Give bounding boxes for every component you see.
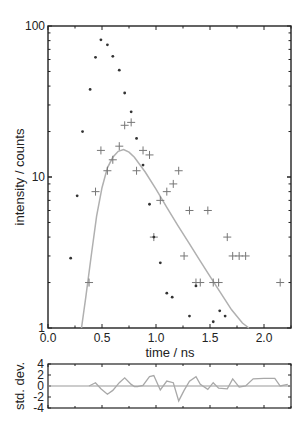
dot-marker xyxy=(69,257,72,260)
dot-marker xyxy=(106,43,109,46)
cross-marker xyxy=(204,206,212,214)
dot-marker xyxy=(81,130,84,133)
dot-marker xyxy=(218,309,221,312)
cross-marker xyxy=(223,233,231,241)
dot-marker xyxy=(142,164,145,167)
cross-marker xyxy=(103,167,111,175)
cross-marker xyxy=(156,196,164,204)
main-plot-area: 0.00.51.01.52.0110100 xyxy=(25,19,291,345)
dot-marker xyxy=(100,38,103,41)
residual-plot-area: -4-2024 xyxy=(33,357,291,415)
dot-marker xyxy=(135,137,138,140)
cross-marker xyxy=(242,252,250,260)
cross-marker xyxy=(115,142,123,150)
cross-marker xyxy=(169,180,177,188)
dot-marker xyxy=(224,315,227,318)
cross-marker xyxy=(180,252,188,260)
chart: 0.00.51.01.52.0110100 -4-2024 time / ns … xyxy=(0,0,308,431)
cross-marker xyxy=(185,206,193,214)
dot-marker xyxy=(130,110,133,113)
x-tick-label: 2.0 xyxy=(256,331,273,345)
cross-marker xyxy=(139,146,147,154)
residual-y-tick-label: 4 xyxy=(37,357,44,371)
dot-marker xyxy=(195,285,198,288)
cross-marker xyxy=(276,279,284,287)
cross-marker xyxy=(196,279,204,287)
dot-marker xyxy=(148,203,151,206)
cross-marker xyxy=(146,151,154,159)
dot-marker xyxy=(94,56,97,59)
x-tick-label: 0.5 xyxy=(94,331,111,345)
dot-marker xyxy=(76,194,79,197)
dot-marker xyxy=(111,55,114,58)
dot-marker xyxy=(165,292,168,295)
y-tick-label: 10 xyxy=(32,170,46,184)
cross-marker xyxy=(133,167,141,175)
dot-marker xyxy=(123,92,126,95)
x-tick-label: 1.0 xyxy=(148,331,165,345)
cross-marker xyxy=(92,188,100,196)
x-axis-label: time / ns xyxy=(145,345,195,360)
x-tick-label: 1.5 xyxy=(202,331,219,345)
residual-line xyxy=(89,376,288,401)
y-tick-label: 1 xyxy=(38,321,45,335)
dot-marker xyxy=(171,296,174,299)
dot-marker xyxy=(188,315,191,318)
plot-frame xyxy=(48,26,291,328)
dot-marker xyxy=(118,69,121,72)
y-axis-label-main: intensity / counts xyxy=(12,128,27,225)
cross-marker xyxy=(175,167,183,175)
dot-marker xyxy=(212,320,215,323)
dot-marker xyxy=(89,88,92,91)
dot-marker xyxy=(152,236,155,239)
fit-curve xyxy=(82,150,249,329)
cross-marker xyxy=(97,146,105,154)
cross-marker xyxy=(163,188,171,196)
dot-marker xyxy=(159,261,162,264)
cross-marker xyxy=(85,279,93,287)
y-axis-label-residual: std. dev. xyxy=(12,362,27,410)
y-tick-label: 100 xyxy=(25,19,45,33)
